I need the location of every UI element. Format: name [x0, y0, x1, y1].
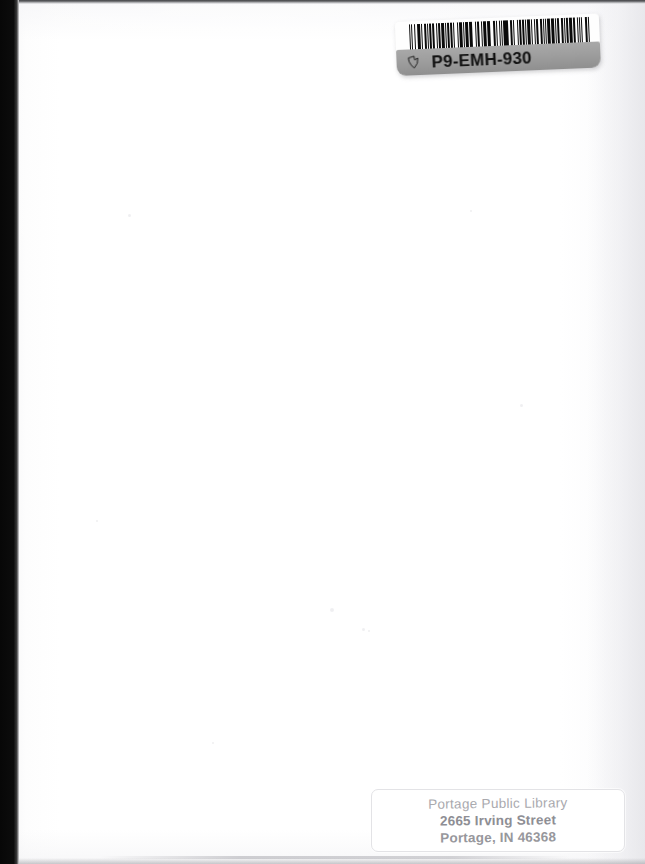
paper-surface	[0, 0, 645, 864]
dust-speck	[128, 214, 131, 217]
barcode-label: P9-EMH-930	[395, 13, 601, 75]
library-street-text: 2665 Irving Street	[372, 812, 624, 830]
scanned-page: P9-EMH-930 Portage Public Library 2665 I…	[0, 0, 645, 864]
dust-speck	[330, 608, 334, 612]
library-city-state-zip-text: Portage, IN 46368	[372, 829, 624, 847]
dust-speck	[362, 628, 365, 631]
library-address-lines: Portage Public Library 2665 Irving Stree…	[372, 795, 624, 847]
dust-speck	[470, 210, 472, 212]
scanner-edge-left	[0, 0, 19, 864]
library-address-label: Portage Public Library 2665 Irving Stree…	[371, 789, 625, 852]
scanner-edge-top	[19, 0, 645, 4]
barcode-code-text: P9-EMH-930	[431, 49, 532, 70]
dust-speck	[368, 630, 370, 632]
library-name-text: Portage Public Library	[372, 795, 624, 813]
scan-smudge-line	[100, 856, 570, 859]
hand-pointer-icon	[405, 54, 424, 71]
dust-speck	[96, 520, 98, 522]
dust-speck	[212, 742, 214, 744]
dust-speck	[520, 404, 523, 407]
